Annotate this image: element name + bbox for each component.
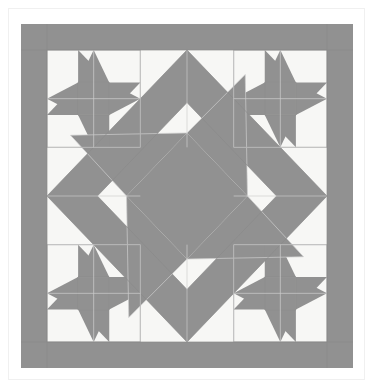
- quilt-block: [21, 24, 353, 368]
- quilt-diagram-page: [0, 0, 373, 385]
- quilt-block-svg: [21, 24, 353, 368]
